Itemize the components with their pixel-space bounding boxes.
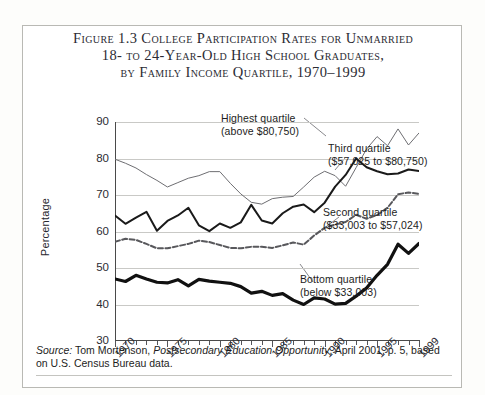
y-tick-label-40: 40 bbox=[79, 299, 109, 310]
figure-card: Figure 1.3 College Participation Rates f… bbox=[22, 25, 462, 388]
title-line-3: by Family Income Quartile, 1970–1999 bbox=[23, 64, 463, 81]
annotation-third-quartile-line2: ($57,025 to $80,750) bbox=[328, 155, 428, 168]
annotation-highest-quartile-line1: Highest quartile bbox=[221, 112, 299, 125]
annotation-third-quartile: Third quartile ($57,025 to $80,750) bbox=[328, 142, 428, 167]
y-tick-label-60: 60 bbox=[79, 226, 109, 237]
y-tick-label-80: 80 bbox=[79, 153, 109, 164]
source-label: Source: bbox=[36, 344, 72, 356]
annotation-bottom-quartile-line1: Bottom quartile bbox=[300, 273, 377, 286]
source-note: Source: Tom Mortenson, Postsecondary Edu… bbox=[36, 344, 454, 370]
annotation-highest-quartile-line2: (above $80,750) bbox=[221, 125, 299, 138]
title-line-2: 18- to 24-Year-Old High School Graduates… bbox=[23, 47, 463, 64]
source-divider bbox=[36, 375, 452, 376]
y-tick-label-70: 70 bbox=[79, 189, 109, 200]
annotation-highest-quartile: Highest quartile (above $80,750) bbox=[221, 112, 299, 137]
y-tick-label-90: 90 bbox=[79, 116, 109, 127]
annotation-second-quartile-line1: Second quartile bbox=[323, 206, 423, 219]
y-axis-title: Percentage bbox=[39, 172, 51, 282]
source-author: Tom Mortenson, bbox=[75, 344, 150, 356]
title-line-1: Figure 1.3 College Participation Rates f… bbox=[23, 30, 463, 47]
annotation-second-quartile-line2: ($33,003 to $57,024) bbox=[323, 219, 423, 232]
chart-plot-region: Percentage Highest quartile (above $80,7… bbox=[23, 86, 463, 381]
annotation-bottom-quartile-line2: (below $33,003) bbox=[300, 286, 377, 299]
figure-title: Figure 1.3 College Participation Rates f… bbox=[23, 30, 463, 81]
annotation-second-quartile: Second quartile ($33,003 to $57,024) bbox=[323, 206, 423, 231]
source-publication: Postsecondary Education Opportunity bbox=[153, 344, 329, 356]
annotation-third-quartile-line1: Third quartile bbox=[328, 142, 428, 155]
y-tick-label-50: 50 bbox=[79, 262, 109, 273]
annotation-bottom-quartile: Bottom quartile (below $33,003) bbox=[300, 273, 377, 298]
